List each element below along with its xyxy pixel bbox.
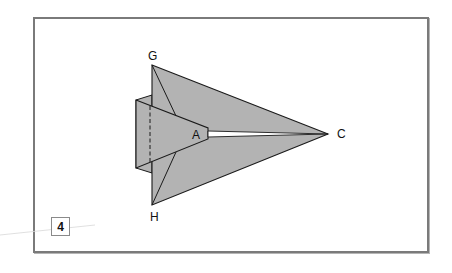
- point-label-a: A: [192, 129, 200, 141]
- step-number-badge: 4: [51, 217, 70, 236]
- point-label-c: C: [337, 128, 346, 140]
- point-label-g: G: [148, 50, 157, 62]
- scan-artifact-line: [0, 225, 95, 235]
- point-label-h: H: [150, 211, 159, 223]
